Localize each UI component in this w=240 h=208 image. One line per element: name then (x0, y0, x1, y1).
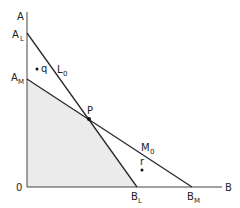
L0-subscript: 0 (63, 70, 67, 78)
point-r-dot (141, 169, 144, 172)
point-q-label: q (41, 63, 47, 74)
M0-subscript: 0 (150, 148, 154, 156)
A-M-label: A (11, 72, 18, 83)
B-M-label: B (187, 191, 194, 202)
point-r-label: r (140, 156, 145, 167)
origin-label: 0 (16, 182, 22, 193)
production-possibility-diagram: P q r A B 0 A L A M B L B M L 0 M 0 (0, 0, 240, 208)
B-L-label: B (131, 191, 138, 202)
A-M-subscript: M (18, 78, 24, 86)
A-L-label: A (12, 29, 19, 40)
point-P-dot (87, 117, 91, 121)
B-L-subscript: L (138, 197, 142, 205)
point-q-dot (36, 68, 39, 71)
B-M-subscript: M (194, 197, 200, 205)
point-P-label: P (87, 105, 93, 116)
y-axis-label: A (17, 11, 24, 22)
x-axis-label: B (225, 182, 232, 193)
A-L-subscript: L (20, 35, 24, 43)
shaded-region (27, 79, 137, 187)
M0-label: M (141, 142, 150, 153)
